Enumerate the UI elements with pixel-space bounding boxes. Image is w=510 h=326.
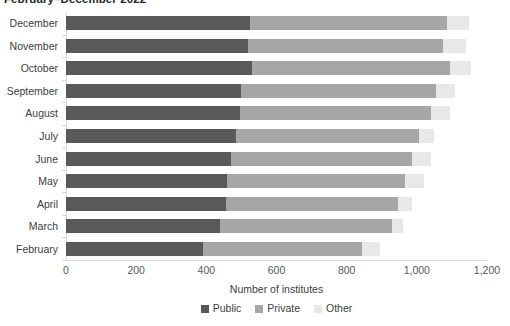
bar-segment-other[interactable]: [398, 197, 412, 211]
bar-segment-private[interactable]: [231, 152, 412, 166]
bar-segment-private[interactable]: [203, 242, 363, 256]
legend-item[interactable]: Other: [314, 302, 352, 314]
bar-row: November: [66, 35, 487, 58]
bar-segment-other[interactable]: [392, 219, 403, 233]
bar-row: July: [66, 125, 487, 148]
bar-segment-private[interactable]: [226, 197, 398, 211]
chart-title: February–December 2022: [4, 0, 146, 5]
legend-swatch: [255, 305, 263, 313]
bar-row: August: [66, 102, 487, 125]
bar-segment-public[interactable]: [66, 242, 203, 256]
stacked-bar[interactable]: [66, 197, 412, 211]
bar-row: February: [66, 237, 487, 260]
y-axis-tick-label: October: [21, 62, 58, 74]
y-axis-tick-label: September: [7, 85, 58, 97]
bar-segment-private[interactable]: [236, 129, 418, 143]
y-axis-tick-label: December: [10, 17, 58, 29]
bar-segment-public[interactable]: [66, 84, 241, 98]
bar-segment-private[interactable]: [252, 61, 450, 75]
stacked-bar[interactable]: [66, 61, 471, 75]
stacked-bar[interactable]: [66, 106, 450, 120]
x-axis-tick-label: 1,000: [404, 264, 430, 276]
bar-segment-public[interactable]: [66, 197, 226, 211]
stacked-bar[interactable]: [66, 174, 424, 188]
bar-segment-other[interactable]: [431, 106, 450, 120]
x-axis-line: [66, 260, 487, 261]
y-axis-tick: [62, 260, 66, 261]
legend-item[interactable]: Private: [255, 302, 300, 314]
stacked-bar[interactable]: [66, 219, 403, 233]
bar-segment-private[interactable]: [227, 174, 404, 188]
bar-segment-private[interactable]: [220, 219, 392, 233]
y-axis-tick-label: November: [10, 40, 58, 52]
bar-segment-private[interactable]: [250, 16, 446, 30]
bar-segment-private[interactable]: [248, 39, 443, 53]
bar-segment-public[interactable]: [66, 174, 227, 188]
y-axis-tick-label: April: [37, 198, 58, 210]
stacked-bar[interactable]: [66, 129, 434, 143]
bar-segment-other[interactable]: [447, 16, 470, 30]
bar-segment-other[interactable]: [443, 39, 466, 53]
bar-segment-public[interactable]: [66, 219, 220, 233]
bar-segment-public[interactable]: [66, 61, 252, 75]
y-axis-tick-label: June: [35, 153, 58, 165]
bar-row: December: [66, 12, 487, 35]
bar-segment-other[interactable]: [405, 174, 424, 188]
y-axis-tick-label: February: [16, 243, 58, 255]
bar-row: March: [66, 215, 487, 238]
stacked-bar[interactable]: [66, 84, 455, 98]
bar-segment-other[interactable]: [450, 61, 471, 75]
bar-row: June: [66, 147, 487, 170]
chart-legend: PublicPrivateOther: [66, 302, 487, 314]
bar-segment-public[interactable]: [66, 106, 240, 120]
stacked-bar[interactable]: [66, 16, 469, 30]
stacked-bar[interactable]: [66, 39, 466, 53]
legend-swatch: [201, 305, 209, 313]
x-axis-title: Number of institutes: [66, 283, 487, 295]
y-axis-tick-label: May: [38, 175, 58, 187]
bar-segment-other[interactable]: [436, 84, 455, 98]
bar-segment-public[interactable]: [66, 16, 250, 30]
bar-row: September: [66, 80, 487, 103]
bar-segment-private[interactable]: [241, 84, 436, 98]
bar-segment-other[interactable]: [419, 129, 435, 143]
bar-row: October: [66, 57, 487, 80]
x-axis-tick-label: 1,200: [474, 264, 500, 276]
x-axis-tick-label: 200: [127, 264, 145, 276]
plot-area: DecemberNovemberOctoberSeptemberAugustJu…: [66, 12, 487, 260]
bar-segment-other[interactable]: [412, 152, 431, 166]
bar-segment-public[interactable]: [66, 39, 248, 53]
stacked-bar[interactable]: [66, 152, 431, 166]
bar-segment-other[interactable]: [362, 242, 380, 256]
x-axis-tick-labels: 02004006008001,0001,200: [66, 264, 487, 280]
x-axis-tick-label: 400: [198, 264, 216, 276]
stacked-bar[interactable]: [66, 242, 380, 256]
y-axis-tick-label: March: [29, 220, 58, 232]
y-axis-tick-label: July: [39, 130, 58, 142]
x-axis-tick-label: 800: [338, 264, 356, 276]
bar-segment-public[interactable]: [66, 129, 236, 143]
x-axis-tick-label: 600: [268, 264, 286, 276]
y-axis-tick-label: August: [25, 107, 58, 119]
bar-segment-public[interactable]: [66, 152, 231, 166]
x-axis-tick-label: 0: [63, 264, 69, 276]
legend-item[interactable]: Public: [201, 302, 242, 314]
legend-swatch: [314, 305, 322, 313]
legend-label: Other: [326, 302, 352, 314]
bar-segment-private[interactable]: [240, 106, 431, 120]
bar-row: April: [66, 192, 487, 215]
legend-label: Private: [267, 302, 300, 314]
legend-label: Public: [213, 302, 242, 314]
bar-row: May: [66, 170, 487, 193]
bar-chart: February–December 2022 DecemberNovemberO…: [0, 0, 510, 326]
